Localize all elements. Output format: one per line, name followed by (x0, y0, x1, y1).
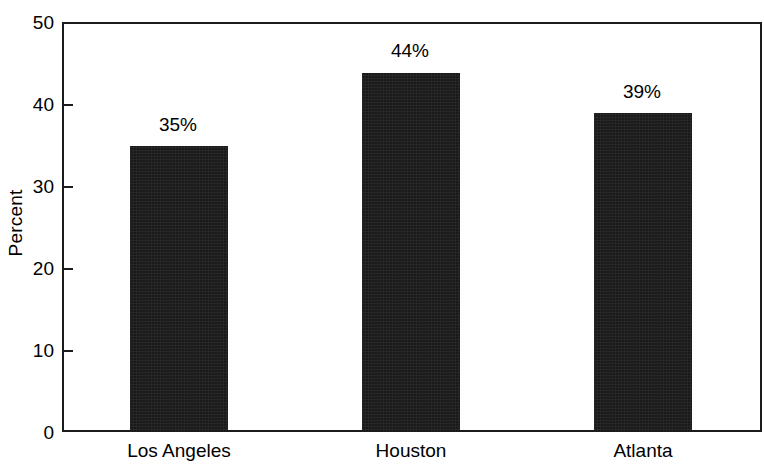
y-tick-label-0: 0 (8, 423, 54, 442)
y-axis-tick-labels: 50 40 30 20 10 0 (0, 0, 54, 468)
y-tick-mark-20 (64, 268, 73, 270)
x-category-label-los-angeles: Los Angeles (99, 441, 259, 460)
y-tick-label-30: 30 (8, 177, 54, 196)
value-label-houston: 44% (360, 41, 460, 60)
bar-houston[interactable] (362, 73, 460, 430)
bar-atlanta[interactable] (594, 113, 692, 430)
y-tick-label-10: 10 (8, 341, 54, 360)
bar-chart-figure: Percent 50 40 30 20 10 0 35% 44% 39% Los… (0, 0, 764, 468)
x-category-label-atlanta: Atlanta (563, 441, 723, 460)
y-tick-mark-30 (64, 186, 73, 188)
y-tick-mark-10 (64, 350, 73, 352)
value-label-atlanta: 39% (592, 82, 692, 101)
y-tick-label-20: 20 (8, 259, 54, 278)
value-label-los-angeles: 35% (128, 115, 228, 134)
y-tick-label-50: 50 (8, 13, 54, 32)
bar-los-angeles[interactable] (130, 146, 228, 430)
y-tick-label-40: 40 (8, 95, 54, 114)
y-tick-mark-40 (64, 104, 73, 106)
x-category-label-houston: Houston (331, 441, 491, 460)
